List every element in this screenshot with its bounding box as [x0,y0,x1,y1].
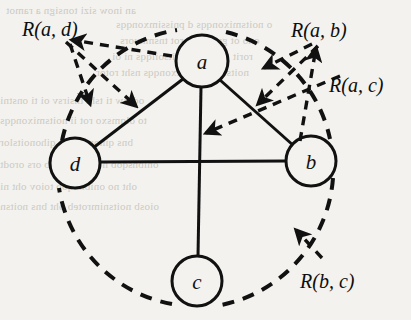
node-a-label: a [197,50,208,74]
solid-edge-a-b [220,80,294,146]
relation-graph-diagram: a b c d [0,0,411,320]
solid-edge-a-d [93,79,183,148]
node-b[interactable]: b [286,136,336,186]
node-c[interactable]: c [172,256,222,306]
solid-edge-d-b [100,161,286,162]
node-b-label: b [306,150,317,174]
node-d-label: d [70,152,81,176]
solid-edges-group [93,79,294,256]
node-a[interactable]: a [176,35,228,87]
node-d[interactable]: d [50,138,100,188]
node-c-label: c [192,270,202,294]
leader-R-a-b-to-edge [258,46,318,104]
dashed-arc-c-d [59,188,172,304]
relation-label-R-b-c: R(b, c) [299,270,355,293]
solid-edge-a-c [198,87,201,256]
relation-label-R-a-c: R(a, c) [328,74,384,97]
leader-R-b-c-to-arc [296,230,322,258]
relation-label-R-a-b: R(a, b) [290,19,347,42]
relation-label-R-a-d: R(a, d) [21,18,78,41]
figure-canvas: an inow sizi tonsign a ramoto noitsmixon… [0,0,411,320]
